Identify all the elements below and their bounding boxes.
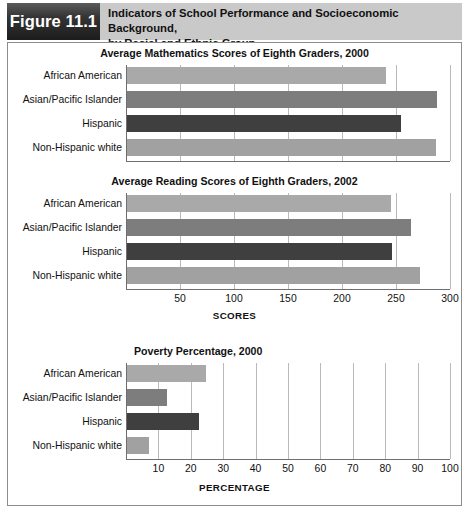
x-tick-label: 60 bbox=[315, 463, 327, 474]
plot-area-reading bbox=[126, 193, 450, 289]
x-tick-label: 150 bbox=[279, 293, 296, 304]
bar bbox=[127, 267, 420, 284]
gridline bbox=[353, 363, 354, 459]
chart-panel-math: Average Mathematics Scores of Eighth Gra… bbox=[8, 47, 461, 167]
category-label: African American bbox=[8, 67, 122, 84]
category-label: Hispanic bbox=[8, 115, 122, 132]
bar bbox=[127, 91, 437, 108]
category-label: Asian/Pacific Islander bbox=[8, 389, 122, 406]
x-tick-label: 50 bbox=[174, 293, 186, 304]
x-tick-label: 100 bbox=[225, 293, 242, 304]
x-tick-label: 30 bbox=[217, 463, 229, 474]
x-tick-label: 300 bbox=[441, 293, 458, 304]
x-tick-label: 50 bbox=[282, 463, 294, 474]
x-tick-label: 20 bbox=[185, 463, 197, 474]
bar bbox=[127, 365, 206, 382]
bar bbox=[127, 389, 167, 406]
gridline bbox=[385, 363, 386, 459]
bar bbox=[127, 195, 391, 212]
figure-title-line1: Indicators of School Performance and Soc… bbox=[108, 7, 399, 34]
plot-area-poverty bbox=[126, 363, 450, 459]
bar bbox=[127, 115, 401, 132]
gridline bbox=[450, 65, 451, 161]
bar bbox=[127, 219, 411, 236]
chart-title-reading: Average Reading Scores of Eighth Graders… bbox=[8, 175, 461, 187]
charts-frame: Average Mathematics Scores of Eighth Gra… bbox=[7, 42, 462, 506]
figure-container: Figure 11.1 Indicators of School Perform… bbox=[0, 0, 469, 513]
x-tick-label: 100 bbox=[441, 463, 458, 474]
gridline bbox=[450, 363, 451, 459]
chart-title-math: Average Mathematics Scores of Eighth Gra… bbox=[8, 47, 461, 59]
category-label: African American bbox=[8, 365, 122, 382]
x-tick-label: 80 bbox=[379, 463, 391, 474]
bar bbox=[127, 413, 199, 430]
bar bbox=[127, 437, 149, 454]
chart-panel-poverty: Poverty Percentage, 2000 African America… bbox=[8, 345, 461, 505]
category-label: Non-Hispanic white bbox=[8, 139, 122, 156]
x-axis-line bbox=[126, 459, 450, 460]
category-label: Non-Hispanic white bbox=[8, 437, 122, 454]
x-tick-label: 40 bbox=[250, 463, 262, 474]
chart-title-poverty: Poverty Percentage, 2000 bbox=[126, 345, 450, 357]
gridline bbox=[223, 363, 224, 459]
x-tick-label: 70 bbox=[347, 463, 359, 474]
gridline bbox=[320, 363, 321, 459]
x-axis-line bbox=[126, 289, 450, 290]
category-label: Asian/Pacific Islander bbox=[8, 219, 122, 236]
category-label: Hispanic bbox=[8, 413, 122, 430]
plot-area-math bbox=[126, 65, 450, 161]
category-label: Asian/Pacific Islander bbox=[8, 91, 122, 108]
figure-header: Figure 11.1 Indicators of School Perform… bbox=[7, 3, 462, 40]
bar bbox=[127, 67, 386, 84]
gridline bbox=[418, 363, 419, 459]
gridline bbox=[450, 193, 451, 289]
bar bbox=[127, 243, 392, 260]
x-tick-label: 90 bbox=[412, 463, 424, 474]
gridline bbox=[288, 363, 289, 459]
figure-number-tag: Figure 11.1 bbox=[7, 3, 100, 40]
bar bbox=[127, 139, 436, 156]
x-tick-label: 200 bbox=[333, 293, 350, 304]
category-label: Non-Hispanic white bbox=[8, 267, 122, 284]
axis-title-scores: SCORES bbox=[8, 310, 461, 321]
x-tick-label: 250 bbox=[387, 293, 404, 304]
gridline bbox=[256, 363, 257, 459]
category-label: African American bbox=[8, 195, 122, 212]
x-axis-line bbox=[126, 161, 450, 162]
category-label: Hispanic bbox=[8, 243, 122, 260]
x-tick-label: 10 bbox=[153, 463, 165, 474]
chart-panel-reading: Average Reading Scores of Eighth Graders… bbox=[8, 175, 461, 335]
axis-title-percentage: PERCENTAGE bbox=[8, 482, 461, 493]
